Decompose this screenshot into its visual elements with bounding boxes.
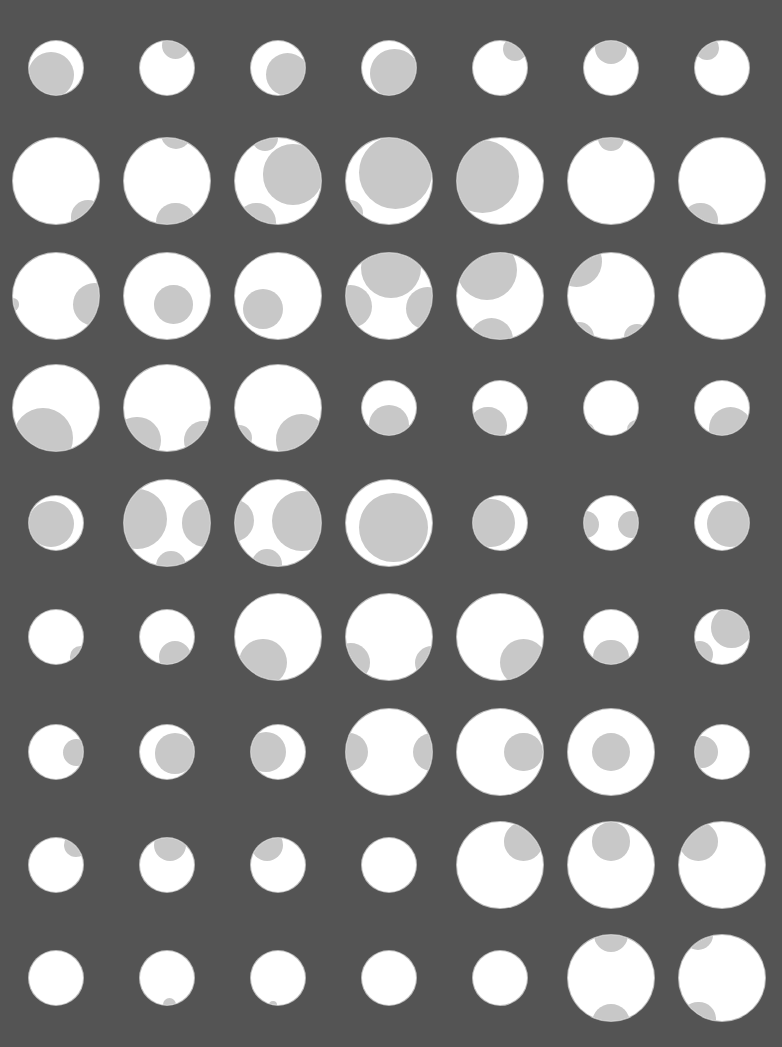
circle-r6-c3: [235, 594, 321, 680]
circle-r9-c3: [251, 951, 305, 1005]
overlay-blob: [359, 138, 432, 209]
circle-r8-c3: [251, 838, 305, 892]
overlay-blob: [592, 822, 631, 861]
circle-r2-c3: [235, 138, 321, 224]
overlay-blob: [243, 289, 283, 329]
overlay-blob: [269, 1001, 277, 1005]
overlay-blob: [594, 935, 628, 952]
circle-r2-c7: [679, 138, 765, 224]
circle-r7-c4: [346, 709, 432, 795]
overlay-blob: [681, 1002, 715, 1021]
overlay-blob: [29, 501, 74, 547]
overlay-blob: [627, 420, 638, 435]
circle-r9-c4: [362, 951, 416, 1005]
circle-r2-c5: [457, 138, 543, 224]
circle-r9-c7: [679, 935, 765, 1021]
circle-r7-c1: [29, 725, 83, 779]
overlay-blob: [182, 499, 210, 546]
circle-r3-c4: [346, 253, 432, 339]
overlay-blob: [13, 408, 73, 451]
overlay-blob: [156, 551, 186, 566]
overlay-blob: [156, 203, 195, 225]
circle-r3-c2: [124, 253, 210, 339]
circle-r4-c4: [362, 381, 416, 435]
overlay-blob: [252, 549, 282, 566]
circle-r6-c5: [457, 594, 543, 680]
overlay-blob: [154, 285, 193, 324]
circle-r4-c3: [235, 365, 321, 451]
overlay-blob: [695, 641, 713, 664]
circle-r6-c4: [346, 594, 432, 680]
overlay-blob: [124, 489, 167, 549]
overlay-blob: [272, 491, 321, 551]
circle-r5-c6: [584, 496, 638, 550]
overlay-blob: [370, 49, 416, 95]
overlay-blob: [593, 640, 628, 664]
circle-r1-c6: [584, 41, 638, 95]
circle-r5-c5: [473, 496, 527, 550]
circle-r3-c6: [568, 253, 654, 339]
circle-r2-c6: [568, 138, 654, 224]
overlay-blob: [263, 144, 321, 204]
circle-r4-c6: [584, 381, 638, 435]
overlay-blob: [584, 511, 599, 538]
overlay-blob: [13, 298, 19, 311]
overlay-blob: [237, 203, 276, 225]
overlay-blob: [624, 324, 650, 339]
circle-r6-c1: [29, 610, 83, 664]
overlay-blob: [73, 283, 99, 326]
circle-r9-c5: [473, 951, 527, 1005]
circle-r7-c3: [251, 725, 305, 779]
overlay-blob: [346, 285, 372, 328]
circle-r4-c7: [695, 381, 749, 435]
circle-r3-c3: [235, 253, 321, 339]
overlay-blob: [473, 499, 515, 548]
overlay-blob: [124, 417, 161, 451]
overlay-blob: [683, 203, 717, 225]
overlay-blob: [584, 422, 595, 436]
overlay-blob: [346, 643, 370, 680]
circle-r8-c7: [679, 822, 765, 908]
circle-r2-c4: [346, 138, 432, 224]
circle-r1-c2: [140, 41, 194, 95]
circle-r7-c7: [695, 725, 749, 779]
overlay-blob: [406, 287, 432, 330]
circle-r7-c5: [457, 709, 543, 795]
overlay-blob: [457, 140, 519, 213]
circle-r5-c2: [124, 480, 210, 566]
circle-r6-c2: [140, 610, 194, 664]
circle-r3-c1: [13, 253, 99, 339]
overlay-blob: [184, 421, 210, 451]
overlay-blob: [361, 253, 421, 298]
circle-r4-c2: [124, 365, 210, 451]
circle-r7-c6: [568, 709, 654, 795]
overlay-blob: [369, 405, 410, 435]
overlay-blob: [346, 733, 368, 772]
circle-r1-c5: [473, 41, 527, 95]
overlay-blob: [251, 838, 283, 861]
overlay-blob: [695, 41, 719, 60]
overlay-blob: [413, 733, 432, 772]
circle-r1-c4: [362, 41, 416, 95]
circle-r6-c6: [584, 610, 638, 664]
overlay-blob: [415, 646, 432, 680]
circle-r1-c1: [29, 41, 83, 95]
circle-r6-c7: [695, 610, 749, 664]
circle-r2-c2: [124, 138, 210, 224]
circle-r2-c1: [13, 138, 99, 224]
overlay-blob: [457, 253, 517, 300]
overlay-blob: [63, 739, 83, 766]
circle-r1-c3: [251, 41, 305, 95]
circle-r9-c2: [140, 951, 194, 1005]
overlay-blob: [159, 641, 191, 664]
overlay-blob: [70, 646, 84, 664]
overlay-blob: [162, 41, 189, 59]
circle-r5-c3: [235, 480, 321, 566]
overlay-blob: [709, 407, 750, 435]
circle-r1-c7: [695, 41, 749, 95]
overlay-blob: [595, 41, 627, 64]
overlay-blob: [568, 322, 594, 339]
circle-r8-c4: [362, 838, 416, 892]
circle-r8-c6: [568, 822, 654, 908]
overlay-blob: [598, 138, 624, 151]
